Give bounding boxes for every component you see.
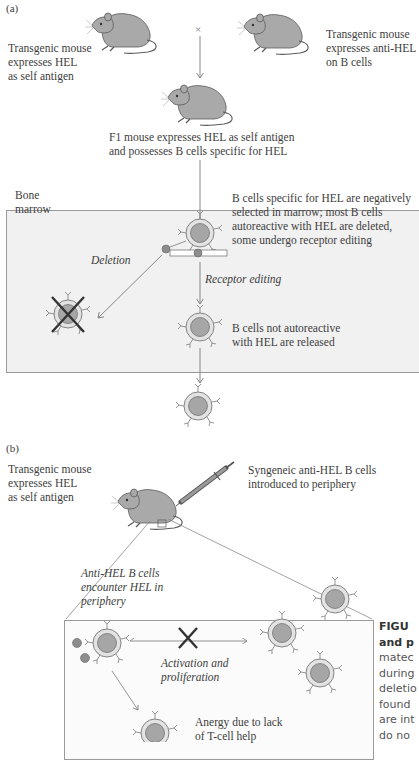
periphery-mouse — [111, 489, 182, 529]
caption-line-4: during — [379, 666, 417, 682]
selection-label: B cells specific for HEL are negatively … — [232, 191, 411, 247]
released-label: B cells not autoreactive with HEL are re… — [232, 321, 340, 349]
deletion-label: Deletion — [91, 253, 131, 267]
mouse-right-label: Transgenic mouse expresses anti-HEL on B… — [326, 27, 416, 69]
injection-label: Syngeneic anti-HEL B cells introduced to… — [248, 463, 376, 491]
caption-line-2: and p — [379, 636, 414, 649]
encounter-label: Anti-HEL B cells encounter HEL in periph… — [81, 566, 163, 608]
bone-marrow-label: Bone marrow — [15, 188, 51, 216]
b-cell-selected — [178, 211, 222, 254]
f1-mouse — [161, 85, 232, 125]
transgenic-hel-mouse — [85, 13, 156, 53]
anergy-label: Anergy due to lack of T-cell help — [195, 715, 283, 743]
f1-label: F1 mouse expresses HEL as self antigen a… — [109, 130, 294, 158]
proliferated-b-cell-3 — [298, 651, 342, 694]
caption-line-8: do no — [379, 728, 417, 744]
syringe-icon — [176, 462, 234, 506]
proliferated-b-cell-2 — [313, 577, 357, 620]
figure-caption: FIGU and p matec during deletio found ar… — [379, 619, 417, 743]
blocked-x-icon — [179, 628, 197, 648]
cross-symbol: × — [195, 22, 201, 36]
caption-line-1: FIGU — [379, 620, 409, 633]
edited-b-cell — [178, 305, 222, 348]
panel-b-mouse-label: Transgenic mouse expresses HEL as self a… — [8, 462, 92, 504]
transgenic-anti-hel-mouse — [237, 14, 308, 54]
anergic-b-cell — [133, 711, 177, 742]
caption-line-6: found — [379, 697, 417, 713]
hel-antigen — [162, 245, 170, 253]
receptor-editing-label: Receptor editing — [205, 272, 281, 286]
released-b-cell — [176, 384, 220, 427]
caption-line-3: matec — [379, 650, 417, 666]
panel-b-label: (b) — [6, 442, 19, 454]
caption-line-5: deletio — [379, 681, 417, 697]
activation-label: Activation and proliferation — [161, 656, 228, 684]
caption-line-7: are int — [379, 712, 417, 728]
anti-hel-b-cell — [85, 621, 129, 664]
proliferated-b-cell-1 — [260, 611, 304, 654]
panel-a-label: (a) — [6, 2, 18, 14]
mouse-left-label: Transgenic mouse expresses HEL as self a… — [8, 41, 92, 83]
